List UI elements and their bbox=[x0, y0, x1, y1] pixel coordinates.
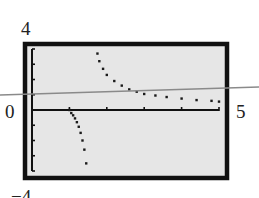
upper-branch-point bbox=[165, 96, 167, 98]
lower-branch-point bbox=[70, 112, 72, 114]
upper-branch-point bbox=[180, 97, 182, 99]
upper-branch-point bbox=[128, 88, 130, 90]
upper-branch-point bbox=[218, 100, 220, 102]
upper-branch-point bbox=[96, 52, 98, 54]
upper-branch-point bbox=[102, 68, 104, 70]
lower-branch-point bbox=[76, 121, 78, 123]
calculator-graph bbox=[0, 0, 259, 198]
upper-branch-point bbox=[106, 74, 108, 76]
lower-branch-point bbox=[68, 109, 70, 111]
upper-branch-point bbox=[210, 100, 212, 102]
lower-branch-point bbox=[74, 117, 76, 119]
lower-branch-point bbox=[81, 139, 83, 141]
upper-branch-point bbox=[195, 99, 197, 101]
lower-branch-point bbox=[72, 114, 74, 116]
upper-branch-point bbox=[121, 84, 123, 86]
lower-branch-point bbox=[78, 126, 80, 128]
lower-branch-point bbox=[79, 132, 81, 134]
lower-branch-point bbox=[85, 162, 87, 164]
upper-branch-point bbox=[113, 80, 115, 82]
lower-branch-point bbox=[83, 148, 85, 150]
upper-branch-point bbox=[98, 60, 100, 62]
upper-branch-point bbox=[143, 93, 145, 95]
upper-branch-point bbox=[154, 94, 156, 96]
